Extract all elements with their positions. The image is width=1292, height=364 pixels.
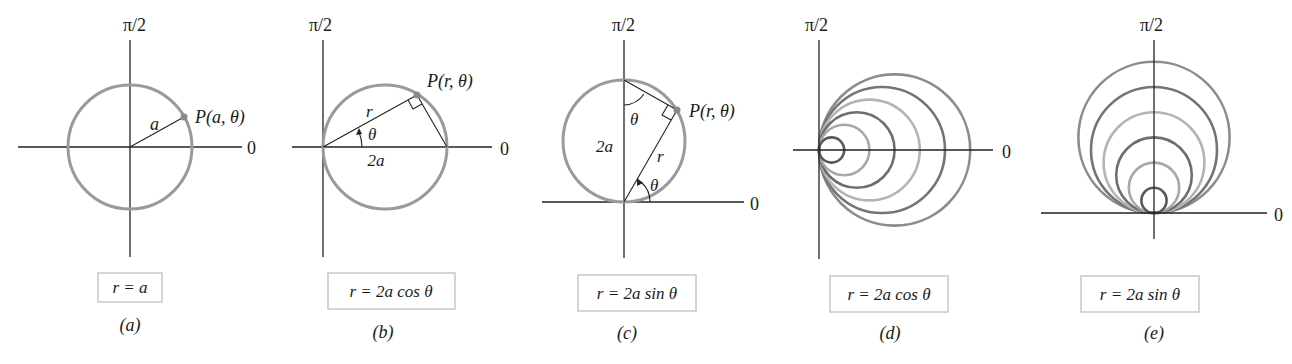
equation-label: r = 2a sin θ [1100,285,1180,304]
equation-label: r = 2a cos θ [847,285,930,304]
axis-label-zero: 0 [750,194,759,214]
panel-a: a P(a, θ) π/2 0 r = a (a) [18,15,256,336]
point-label: P(r, θ) [688,101,735,122]
segment-label-2a: 2a [368,151,385,170]
axis-label-zero: 0 [247,138,256,158]
panel-caption: (e) [1144,323,1164,344]
equation-label: r = a [112,278,147,297]
axis-label-pi-over-2: π/2 [805,15,828,35]
equation-label: r = 2a cos θ [349,282,432,301]
panel-caption: (d) [880,323,901,344]
angle-arc-top [624,94,644,105]
axis-label-zero: 0 [1274,205,1283,225]
right-angle-mark [662,105,671,120]
panel-caption: (b) [373,322,394,343]
panel-e: π/2 0 r = 2a sin θ (e) [1041,15,1283,344]
angle-label-theta-bottom: θ [650,176,658,195]
segment-label-2a: 2a [596,137,613,156]
axis-label-pi-over-2: π/2 [612,15,635,35]
right-angle-mark [408,100,422,109]
equation-label: r = 2a sin θ [597,284,677,303]
angle-label-theta: θ [368,125,376,144]
axis-label-pi-over-2: π/2 [123,15,146,35]
axis-label-pi-over-2: π/2 [309,15,332,35]
panel-b: r θ 2a P(r, θ) π/2 0 r = 2a cos θ (b) [292,15,509,343]
panel-c: θ 2a r θ P(r, θ) π/2 0 r = 2a sin θ (c) [542,15,759,344]
point-p [181,114,188,121]
panel-caption: (c) [617,323,637,344]
angle-label-theta-top: θ [630,110,638,129]
point-p [414,92,421,99]
segment-label-a: a [150,114,159,134]
polar-circles-figure: a P(a, θ) π/2 0 r = a (a) r θ 2a P(r, θ)… [0,0,1292,364]
segment-label-r: r [657,147,664,166]
angle-arrowhead-icon [356,128,362,135]
panel-caption: (a) [120,315,141,336]
point-label: P(a, θ) [194,107,245,128]
point-p [674,107,681,114]
axis-label-zero: 0 [500,139,509,159]
axis-label-pi-over-2: π/2 [1140,15,1163,35]
point-label: P(r, θ) [426,71,473,92]
panel-d: π/2 0 r = 2a cos θ (d) [793,15,1011,344]
segment-label-r: r [366,102,373,121]
axis-label-zero: 0 [1002,142,1011,162]
angle-arrowhead-icon [637,178,643,186]
